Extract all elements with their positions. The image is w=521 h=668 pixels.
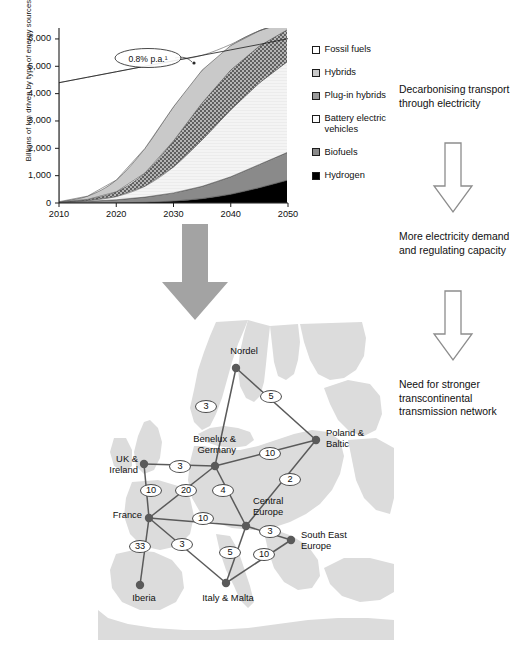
- map-node-iberia[interactable]: [136, 581, 144, 589]
- legend-label-fossil-fuels: Fossil fuels: [325, 44, 372, 55]
- map-node-central[interactable]: [242, 522, 250, 530]
- map-node-label-benelux: Benelux & Germany: [158, 434, 236, 456]
- map-node-label-nordel: Nordel: [214, 346, 274, 357]
- european-transmission-network-map: NordelPoland & BalticBenelux & GermanyUK…: [98, 318, 394, 640]
- map-node-benelux[interactable]: [211, 462, 219, 470]
- legend-label-plug-in-hybrids: Plug-in hybrids: [325, 90, 387, 101]
- legend-item-hydrogen: Hydrogen: [312, 170, 404, 181]
- legend-item-hybrids: Hybrids: [312, 67, 404, 78]
- chart-annotation-label: 0.8% p.a.¹: [115, 54, 181, 64]
- map-edge-capacity-benelux-poland: 10: [259, 447, 281, 460]
- map-edge-capacity-central-see: 3: [259, 525, 281, 538]
- map-edge-capacity-central-italy: 5: [219, 546, 241, 559]
- legend-swatch-hydrogen-icon: [312, 172, 320, 180]
- map-edge-capacity-benelux-central: 4: [212, 484, 234, 497]
- chart-y-tick-label: 1,000: [11, 170, 51, 180]
- chart-x-tick-label: 2020: [96, 209, 136, 219]
- legend-item-battery-electric-vehicles: Battery electric vehicles: [312, 113, 404, 134]
- legend-item-fossil-fuels: Fossil fuels: [312, 44, 404, 55]
- map-edge-capacity-see-italy: 10: [253, 548, 275, 561]
- flow-arrow-1-icon: [432, 142, 474, 214]
- map-node-label-poland: Poland & Baltic: [326, 428, 382, 450]
- map-node-label-italy: Italy & Malta: [193, 593, 263, 604]
- legend-swatch-battery-electric-vehicles-icon: [312, 115, 320, 123]
- flow-step-3-text: Need for stronger transcontinental trans…: [399, 378, 511, 419]
- map-node-france[interactable]: [145, 514, 153, 522]
- legend-item-biofuels: Biofuels: [312, 147, 404, 158]
- map-edge-capacity-france-iberia: 33: [129, 540, 151, 553]
- chart-x-tick-label: 2010: [39, 209, 79, 219]
- legend-item-plug-in-hybrids: Plug-in hybrids: [312, 90, 404, 101]
- map-node-ukie[interactable]: [140, 460, 148, 468]
- map-node-see[interactable]: [287, 536, 295, 544]
- map-node-label-central: Central Europe: [253, 496, 305, 518]
- chart-y-tick-marks: [55, 39, 59, 203]
- map-node-label-iberia: Iberia: [118, 593, 170, 604]
- chart-y-tick-label: 6,000: [11, 33, 51, 43]
- chart-y-tick-label: 5,000: [11, 61, 51, 71]
- legend-label-hybrids: Hybrids: [325, 67, 357, 78]
- map-node-label-see: South East Europe: [301, 530, 367, 552]
- chart-to-map-arrow-icon: [160, 224, 230, 322]
- legend-swatch-fossil-fuels-icon: [312, 46, 320, 54]
- chart-legend: Fossil fuels Hybrids Plug-in hybrids Bat…: [312, 44, 404, 193]
- chart-y-tick-label: 4,000: [11, 88, 51, 98]
- chart-x-tick-label: 2040: [211, 209, 251, 219]
- chart-y-tick-label: 3,000: [11, 115, 51, 125]
- flow-step-1-text: Decarbonising transport through electric…: [399, 83, 511, 110]
- map-edge-capacity-nordel-poland: 5: [260, 390, 282, 403]
- flow-step-2-text: More electricity demand and regulating c…: [399, 230, 511, 257]
- chart-stacked-areas: [59, 22, 288, 203]
- chart-x-tick-label: 2050: [268, 209, 308, 219]
- map-edge-capacity-benelux-ukie: 3: [169, 460, 191, 473]
- map-edge-capacity-benelux-france: 20: [175, 484, 197, 497]
- legend-swatch-plug-in-hybrids-icon: [312, 92, 320, 100]
- legend-swatch-hybrids-icon: [312, 69, 320, 77]
- legend-label-hydrogen: Hydrogen: [325, 170, 365, 181]
- map-node-poland[interactable]: [312, 436, 320, 444]
- map-edge-capacity-nordel-benelux: 3: [195, 400, 217, 413]
- chart-x-tick-label: 2030: [154, 209, 194, 219]
- flow-arrow-2-icon: [432, 290, 474, 362]
- map-edge-nordel-poland: [236, 368, 316, 440]
- chart-y-tick-label: 0: [11, 198, 51, 208]
- annotation-leader-dot: [192, 61, 195, 64]
- map-edge-capacity-france-central: 10: [192, 512, 214, 525]
- legend-label-biofuels: Biofuels: [325, 147, 358, 158]
- map-node-label-ukie: UK & Ireland: [86, 454, 138, 476]
- map-node-italy[interactable]: [222, 579, 230, 587]
- chart-y-tick-label: 2,000: [11, 143, 51, 153]
- legend-swatch-biofuels-icon: [312, 148, 320, 156]
- map-node-label-france: France: [90, 510, 142, 521]
- map-edge-capacity-france-italy: 3: [171, 538, 193, 551]
- map-edge-capacity-poland-central: 2: [279, 473, 301, 486]
- legend-label-battery-electric-vehicles: Battery electric vehicles: [325, 113, 399, 134]
- map-node-nordel[interactable]: [232, 364, 240, 372]
- chart-x-tick-marks: [59, 203, 288, 207]
- map-edge-capacity-ukie-france: 10: [140, 484, 162, 497]
